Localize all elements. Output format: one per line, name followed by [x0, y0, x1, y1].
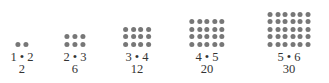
dot-icon: [275, 42, 280, 47]
dot-icon: [305, 19, 310, 24]
dot-array-group: 2 • 36: [63, 34, 86, 75]
dot-icon: [283, 42, 288, 47]
product-label: 2 • 3: [63, 51, 86, 63]
dot-icon: [197, 19, 202, 24]
dot-icon: [290, 19, 295, 24]
dot-icon: [305, 27, 310, 32]
dot-icon: [123, 42, 128, 47]
dot-icon: [298, 19, 303, 24]
dot-grid: [189, 19, 224, 47]
dot-icon: [220, 42, 225, 47]
value-label: 30: [283, 63, 296, 75]
dot-icon: [205, 42, 210, 47]
dot-icon: [212, 19, 217, 24]
dot-icon: [212, 34, 217, 39]
dot-icon: [123, 27, 128, 32]
dot-icon: [72, 34, 77, 39]
dot-icon: [290, 34, 295, 39]
dot-icon: [146, 27, 151, 32]
dot-icon: [146, 34, 151, 39]
dot-icon: [305, 42, 310, 47]
dot-icon: [283, 12, 288, 17]
dot-icon: [80, 34, 85, 39]
dot-icon: [212, 27, 217, 32]
dot-icon: [16, 42, 21, 47]
dot-icon: [23, 42, 28, 47]
dot-icon: [290, 27, 295, 32]
dot-icon: [275, 34, 280, 39]
dot-icon: [189, 27, 194, 32]
dot-icon: [305, 34, 310, 39]
dot-icon: [189, 34, 194, 39]
dot-icon: [197, 27, 202, 32]
dot-icon: [197, 42, 202, 47]
dot-icon: [220, 34, 225, 39]
dot-icon: [197, 34, 202, 39]
dot-icon: [298, 42, 303, 47]
dot-array-group: 4 • 520: [189, 19, 224, 75]
dot-icon: [283, 19, 288, 24]
dot-icon: [290, 12, 295, 17]
value-label: 6: [72, 63, 78, 75]
dot-icon: [138, 34, 143, 39]
dot-icon: [189, 19, 194, 24]
dot-icon: [298, 34, 303, 39]
value-label: 2: [19, 63, 25, 75]
dot-icon: [189, 42, 194, 47]
dot-icon: [138, 42, 143, 47]
dot-array-group: 3 • 412: [123, 27, 151, 75]
dot-icon: [131, 34, 136, 39]
dot-grid: [16, 42, 29, 47]
dot-icon: [205, 19, 210, 24]
dot-grid: [65, 34, 85, 47]
dot-icon: [205, 27, 210, 32]
dot-icon: [80, 42, 85, 47]
product-label: 4 • 5: [195, 51, 218, 63]
dot-icon: [205, 34, 210, 39]
dot-icon: [65, 34, 70, 39]
dot-icon: [65, 42, 70, 47]
dot-icon: [131, 27, 136, 32]
dot-array-group: 1 • 22: [10, 42, 33, 75]
dot-icon: [268, 19, 273, 24]
dot-array-group: 5 • 630: [268, 12, 311, 75]
dot-icon: [290, 42, 295, 47]
dot-grid: [268, 12, 311, 47]
dot-icon: [268, 34, 273, 39]
dot-icon: [275, 19, 280, 24]
dot-icon: [275, 12, 280, 17]
dot-icon: [268, 42, 273, 47]
dot-icon: [283, 34, 288, 39]
dot-icon: [268, 27, 273, 32]
dot-icon: [72, 42, 77, 47]
dot-icon: [138, 27, 143, 32]
dot-icon: [123, 34, 128, 39]
dot-icon: [146, 42, 151, 47]
dot-icon: [305, 12, 310, 17]
value-label: 20: [201, 63, 214, 75]
dot-icon: [275, 27, 280, 32]
dot-icon: [220, 27, 225, 32]
dot-icon: [220, 19, 225, 24]
value-label: 12: [131, 63, 144, 75]
dot-grid: [123, 27, 151, 47]
dot-icon: [298, 27, 303, 32]
dot-icon: [283, 27, 288, 32]
dot-icon: [268, 12, 273, 17]
dot-icon: [298, 12, 303, 17]
dot-icon: [131, 42, 136, 47]
dot-icon: [212, 42, 217, 47]
